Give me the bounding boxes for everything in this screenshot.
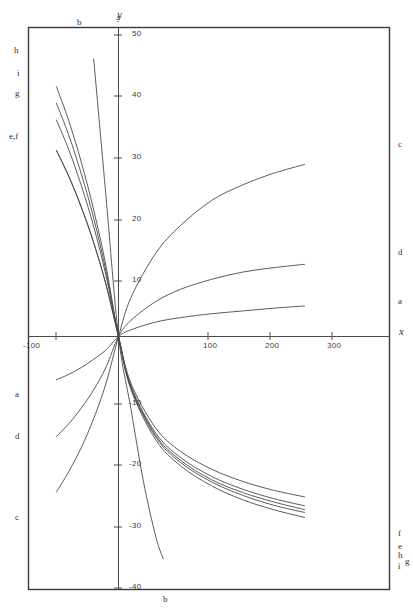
- x-tick-label-3: 300: [327, 341, 341, 350]
- curve-c: [57, 164, 305, 491]
- y-tick-label-2: 30: [132, 152, 142, 161]
- x-tick-label-0: -100: [23, 341, 40, 350]
- curve-label-left-0: h: [14, 45, 19, 55]
- curve-b: [94, 59, 163, 559]
- y-tick-label-0: 50: [132, 29, 142, 38]
- curve-label-left-4: a: [15, 389, 19, 399]
- chart-figure: y x -1001002003005040302010-10-20-30-40b…: [0, 0, 413, 612]
- y-tick-label-1: 40: [132, 90, 142, 99]
- y-tick-label-3: 20: [132, 214, 142, 223]
- x-axis-name: x: [399, 325, 404, 337]
- curve-label-right-7: i: [398, 561, 401, 571]
- curve-e: [57, 151, 305, 506]
- curve-label-left-1: i: [17, 68, 20, 78]
- y-tick-label-5: -10: [129, 398, 141, 407]
- curve-i: [57, 103, 305, 517]
- x-tick-label-2: 200: [265, 341, 279, 350]
- curve-label-left-6: c: [15, 512, 19, 522]
- curve-group: [57, 59, 305, 559]
- curve-label-right-6: g: [405, 556, 410, 566]
- curve-label-right-3: f: [398, 528, 401, 538]
- curve-label-right-1: d: [398, 247, 403, 257]
- curve-label-top-y: y: [117, 12, 122, 22]
- x-tick-label-1: 100: [203, 341, 217, 350]
- curve-d: [57, 264, 305, 436]
- y-tick-label-8: -40: [129, 582, 141, 591]
- y-tick-label-7: -30: [129, 521, 141, 530]
- curve-label-bottom-b: b: [163, 594, 168, 604]
- curve-label-left-5: d: [15, 431, 20, 441]
- curve-label-right-0: c: [398, 139, 402, 149]
- curve-label-top-b: b: [77, 17, 82, 27]
- curve-label-left-3: e,f: [9, 131, 18, 141]
- curve-label-left-2: g: [15, 88, 20, 98]
- curve-label-right-2: a: [398, 296, 402, 306]
- curve-h: [57, 87, 305, 510]
- plot-frame: [29, 28, 390, 590]
- curve-g: [57, 120, 305, 512]
- y-tick-label-4: 10: [132, 275, 142, 284]
- curve-f: [57, 151, 305, 497]
- y-tick-label-6: -20: [129, 459, 141, 468]
- curve-label-right-5: h: [398, 550, 403, 560]
- chart-plot-area: [0, 0, 413, 612]
